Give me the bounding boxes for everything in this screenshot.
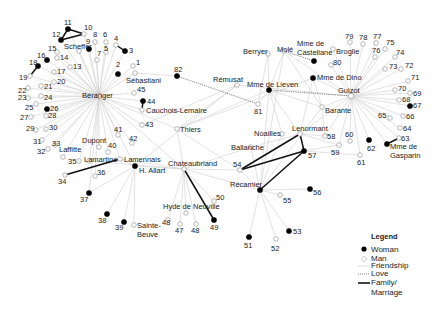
node-label: 17 xyxy=(57,67,65,76)
node-label: 59 xyxy=(331,148,339,157)
node-label: Lamartine xyxy=(84,155,117,164)
man-node xyxy=(26,96,31,101)
man-node xyxy=(337,143,342,148)
node-label: 29 xyxy=(26,124,34,133)
node-label: 48 xyxy=(191,226,199,235)
node-label: 79 xyxy=(345,32,353,41)
node-label: 16 xyxy=(37,51,45,60)
man-node xyxy=(388,116,393,121)
man-node xyxy=(131,64,136,69)
node-label: 31 xyxy=(33,137,41,146)
woman-node xyxy=(140,98,145,103)
node-label: 5 xyxy=(104,44,108,53)
node-label: 27 xyxy=(20,113,28,122)
friendship-edge xyxy=(260,51,284,190)
node-label: 75 xyxy=(386,38,394,47)
friendship-edge xyxy=(249,190,260,237)
node-label: 30 xyxy=(49,123,57,132)
man-node xyxy=(140,123,145,128)
node-label: 78 xyxy=(359,33,367,42)
man-node xyxy=(320,105,325,110)
node-label: 12 xyxy=(52,30,60,39)
node-label: 7 xyxy=(97,49,101,58)
friendship-edge xyxy=(260,189,310,190)
node-label: 32 xyxy=(37,147,45,156)
man-node xyxy=(358,153,363,158)
man-node xyxy=(348,139,353,144)
node-label: 72 xyxy=(405,61,413,70)
node-label: 63 xyxy=(401,134,409,143)
friendship-edge xyxy=(351,96,399,100)
man-node xyxy=(132,223,137,228)
man-node xyxy=(361,42,366,47)
node-label: 14 xyxy=(60,53,68,62)
node-label: 80 xyxy=(333,58,341,67)
friendship-edge xyxy=(260,90,269,190)
node-label: Mme de Dino xyxy=(317,73,362,82)
man-node xyxy=(114,43,119,48)
node-label: 67 xyxy=(413,101,421,110)
man-node xyxy=(374,41,379,46)
man-node xyxy=(97,145,102,150)
man-node xyxy=(44,127,49,132)
friendship-edge xyxy=(89,166,135,193)
man-node xyxy=(373,55,378,60)
man-node xyxy=(175,127,180,132)
woman-node xyxy=(65,26,70,31)
node-label: 44 xyxy=(147,97,155,106)
woman-symbol-icon xyxy=(361,246,366,251)
node-label: 42 xyxy=(129,134,137,143)
node-label: Sainte-Beuve xyxy=(137,221,161,239)
node-label: 25 xyxy=(25,103,33,112)
node-label: 43 xyxy=(145,120,153,129)
man-node xyxy=(140,108,145,113)
family-edges xyxy=(30,29,399,220)
node-label: 18 xyxy=(29,58,37,67)
node-label: 34 xyxy=(58,177,66,186)
node-label: Berryer xyxy=(243,47,268,56)
man-node xyxy=(52,80,57,85)
man-node xyxy=(383,47,388,52)
node-label: Barante xyxy=(325,106,351,115)
man-node xyxy=(77,159,82,164)
node-label: 64 xyxy=(403,124,411,133)
friendship-edge xyxy=(184,169,240,170)
friendship-edge xyxy=(124,166,135,222)
man-node xyxy=(34,128,39,133)
man-node xyxy=(398,126,403,131)
node-label: 39 xyxy=(115,223,123,232)
node-label: 52 xyxy=(271,244,279,253)
node-label: 21 xyxy=(44,82,52,91)
node-label: 77 xyxy=(373,32,381,41)
node-label: 48 xyxy=(162,218,170,227)
node-label: Récamier xyxy=(230,180,263,189)
node-label: 76 xyxy=(372,46,380,55)
node-label: 62 xyxy=(367,144,375,153)
friendship-edge xyxy=(260,190,276,239)
node-label: 28 xyxy=(48,111,56,120)
node-label: 2 xyxy=(116,60,120,69)
woman-node xyxy=(301,148,306,153)
node-label: 57 xyxy=(308,151,316,160)
friendship-edge xyxy=(351,96,369,140)
woman-node xyxy=(246,234,251,239)
friendship-edge xyxy=(142,85,237,125)
node-label: Rémusat xyxy=(213,75,244,84)
legend-family-label: Family/ xyxy=(371,278,398,287)
friendship-edge xyxy=(107,166,135,214)
node-label: 35 xyxy=(68,157,76,166)
node-label: Lenormant xyxy=(292,124,329,133)
node-label: 20 xyxy=(57,77,65,86)
man-node xyxy=(28,74,33,79)
friendship-edge xyxy=(184,169,214,201)
node-label: 65 xyxy=(378,111,386,120)
legend: Legend Woman Man Friendship Love Family/… xyxy=(358,232,409,297)
man-node xyxy=(401,114,406,119)
woman-node xyxy=(211,217,216,222)
friendship-edge xyxy=(351,96,360,155)
node-label: 37 xyxy=(80,195,88,204)
friendship-edge xyxy=(134,166,135,225)
node-label: 50 xyxy=(216,193,224,202)
node-label: Molé xyxy=(277,45,293,54)
node-label: 3 xyxy=(129,46,133,55)
